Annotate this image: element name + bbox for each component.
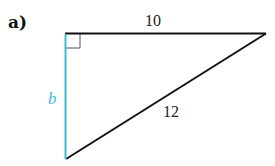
vertical-side-label: b: [48, 89, 57, 108]
triangle-diagram: a) 10 12 b: [0, 0, 275, 166]
hypotenuse: [66, 34, 266, 160]
top-side-label: 10: [145, 12, 161, 29]
hypotenuse-label: 12: [163, 103, 179, 120]
part-label: a): [8, 12, 27, 32]
right-angle-marker: [65, 34, 80, 48]
